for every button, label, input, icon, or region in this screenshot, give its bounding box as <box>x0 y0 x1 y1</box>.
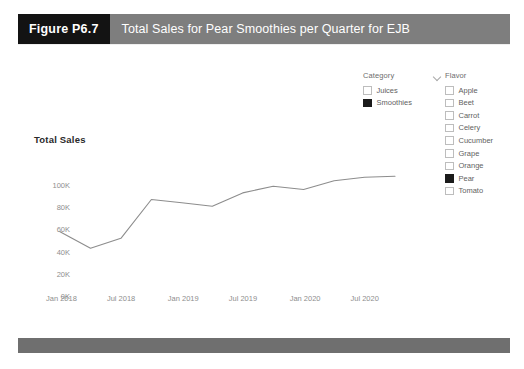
figure-footer-band <box>18 338 510 353</box>
checkbox-icon[interactable] <box>445 111 454 120</box>
slicer-flavor-item-label: Pear <box>459 175 475 183</box>
checkbox-icon[interactable] <box>363 86 372 95</box>
checkbox-icon[interactable] <box>445 136 454 145</box>
slicer-flavor-item[interactable]: Celery <box>445 122 509 135</box>
checkbox-icon[interactable] <box>445 124 454 133</box>
slicer-flavor-item[interactable]: Cucumber <box>445 134 509 147</box>
slicer-flavor-item[interactable]: Pear <box>445 172 509 185</box>
slicer-flavor-item[interactable]: Apple <box>445 84 509 97</box>
slicer-flavor-item-label: Carrot <box>459 112 480 120</box>
slicer-category-items: JuicesSmoothies <box>363 84 441 109</box>
slicer-flavor-item-label: Grape <box>459 150 480 158</box>
slicer-category-item-label: Juices <box>377 87 398 95</box>
slicer-flavor-title: Flavor <box>445 71 466 80</box>
checkbox-checked-icon[interactable] <box>445 174 454 183</box>
slicer-flavor-items: AppleBeetCarrotCeleryCucumberGrapeOrange… <box>445 84 509 197</box>
checkbox-icon[interactable] <box>445 99 454 108</box>
slicer-category-header[interactable]: Category <box>363 71 441 80</box>
slicer-flavor-item-label: Celery <box>459 124 481 132</box>
chevron-down-icon[interactable] <box>433 72 441 80</box>
checkbox-icon[interactable] <box>445 86 454 95</box>
report-page: Figure P6.7 Total Sales for Pear Smoothi… <box>0 0 524 369</box>
figure-number-tag: Figure P6.7 <box>18 14 110 44</box>
report-canvas: Total Sales 0K20K40K60K80K100K Jan 2018J… <box>18 44 510 330</box>
slicer-flavor-item[interactable]: Orange <box>445 160 509 173</box>
slicer-category-item[interactable]: Juices <box>363 84 441 97</box>
slicer-category-item-label: Smoothies <box>377 99 412 107</box>
figure-header: Figure P6.7 Total Sales for Pear Smoothi… <box>18 14 510 44</box>
slicer-flavor-item[interactable]: Grape <box>445 147 509 160</box>
checkbox-icon[interactable] <box>445 149 454 158</box>
slicer-flavor-header: Flavor <box>445 71 509 80</box>
slicer-category[interactable]: Category JuicesSmoothies <box>363 71 441 109</box>
slicer-flavor-item[interactable]: Tomato <box>445 185 509 198</box>
slicer-flavor-item[interactable]: Carrot <box>445 109 509 122</box>
checkbox-checked-icon[interactable] <box>363 99 372 108</box>
slicer-category-item[interactable]: Smoothies <box>363 97 441 110</box>
slicer-flavor[interactable]: Flavor AppleBeetCarrotCeleryCucumberGrap… <box>445 71 509 197</box>
slicer-flavor-item-label: Orange <box>459 162 484 170</box>
figure-title: Total Sales for Pear Smoothies per Quart… <box>110 14 510 44</box>
slicer-flavor-item[interactable]: Beet <box>445 97 509 110</box>
slicer-flavor-item-label: Tomato <box>459 187 484 195</box>
slicer-flavor-item-label: Apple <box>459 87 478 95</box>
slicer-flavor-item-label: Cucumber <box>459 137 494 145</box>
slicer-category-title: Category <box>363 71 394 80</box>
slicer-flavor-item-label: Beet <box>459 99 474 107</box>
checkbox-icon[interactable] <box>445 187 454 196</box>
checkbox-icon[interactable] <box>445 162 454 171</box>
